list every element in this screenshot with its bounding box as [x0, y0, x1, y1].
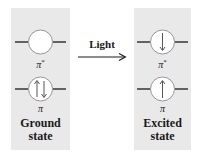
ground-state-panel: π* π Ground state	[11, 8, 70, 150]
light-label: Light	[82, 38, 122, 50]
excited-pi-star-orbital	[134, 29, 191, 55]
excited-pi-star-label: π*	[134, 57, 191, 70]
excited-state-panel: π* π Excited state	[134, 8, 191, 150]
ground-pi-orbital	[11, 76, 70, 102]
single-electron-up-icon	[134, 76, 191, 102]
transition-arrow-icon	[76, 52, 128, 62]
single-electron-down-icon	[134, 29, 191, 55]
ground-state-title: Ground state	[11, 117, 70, 143]
paired-electrons-icon	[11, 76, 70, 102]
excited-pi-orbital	[134, 76, 191, 102]
excited-pi-label: π	[134, 104, 191, 114]
excited-state-title: Excited state	[134, 117, 191, 143]
ground-pi-star-orbital	[11, 29, 70, 55]
ground-pi-star-label: π*	[11, 57, 70, 70]
ground-pi-label: π	[11, 104, 70, 114]
empty-orbital-icon	[11, 29, 70, 55]
